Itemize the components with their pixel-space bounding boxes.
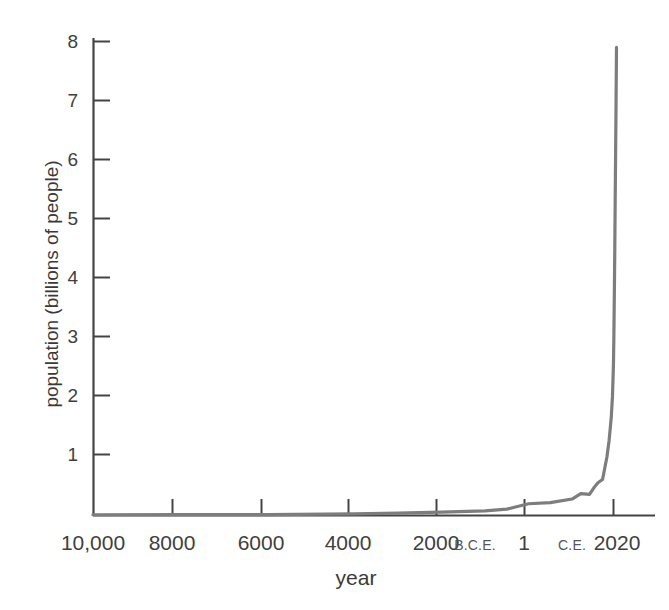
x-tick-label-4000-bce: 4000: [298, 532, 398, 553]
y-axis-title: population (billions of people): [41, 144, 63, 424]
x-axis-title: year: [0, 566, 669, 590]
y-axis-ticks: [94, 42, 110, 455]
y-tick-label-7: 7: [38, 91, 78, 110]
chart-plot-area: [0, 0, 669, 610]
population-series-line: [93, 47, 617, 514]
y-tick-label-8: 8: [38, 32, 78, 51]
x-tick-label-6000-bce: 6000: [211, 532, 311, 553]
x-tick-label-2020-ce: 2020: [567, 532, 667, 553]
x-tick-label-8000-bce: 8000: [122, 532, 222, 553]
x-tick-label-year-1: 1: [494, 532, 554, 553]
population-growth-chart: 8 7 6 5 4 3 2 1 10,000 8000 6000 4000 20…: [0, 0, 669, 610]
y-tick-label-1: 1: [38, 445, 78, 464]
